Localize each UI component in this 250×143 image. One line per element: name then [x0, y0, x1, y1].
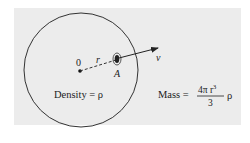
mass-numerator: 4π r3 — [198, 83, 216, 95]
mass-rho: ρ — [227, 90, 232, 101]
center-label: 0 — [76, 57, 81, 68]
radius-label: r — [96, 54, 100, 65]
mass-numerator-base: 4π r — [198, 85, 214, 95]
velocity-label: v — [156, 52, 161, 63]
velocity-arrow — [119, 48, 158, 58]
point-a-label: A — [113, 68, 121, 79]
mass-denominator: 3 — [208, 98, 213, 108]
mass-label-prefix: Mass = — [158, 89, 189, 100]
mass-numerator-exp: 3 — [213, 83, 216, 90]
density-label: Density = ρ — [54, 89, 103, 100]
particle-a — [115, 55, 120, 63]
sphere-diagram: 0 r A v Density = ρ Mass = 4π r3 3 ρ — [0, 0, 250, 143]
